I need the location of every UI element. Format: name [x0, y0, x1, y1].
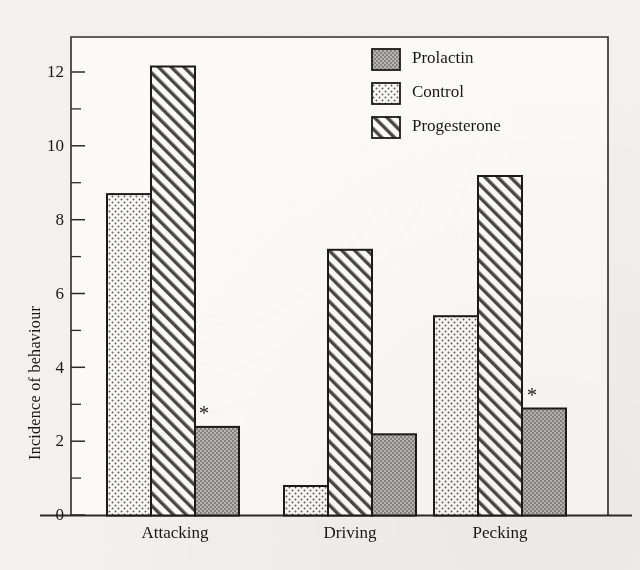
legend-swatches: [372, 49, 400, 138]
legend-label-control: Control: [412, 82, 464, 102]
significance-star-attacking-prolactin: *: [199, 403, 209, 423]
x-tick-label-driving: Driving: [288, 523, 412, 543]
y-tick-label-8: 8: [36, 210, 64, 230]
y-tick-label-4: 4: [36, 358, 64, 378]
bar-pecking-prolactin[interactable]: [522, 409, 566, 516]
bar-driving-control[interactable]: [284, 486, 328, 516]
bar-attacking-progesterone[interactable]: [151, 67, 195, 516]
bar-driving-progesterone[interactable]: [328, 250, 372, 516]
legend-label-progesterone: Progesterone: [412, 116, 501, 136]
legend-swatch-control: [372, 83, 400, 104]
y-tick-label-0: 0: [36, 505, 64, 525]
significance-star-pecking-prolactin: *: [527, 385, 537, 405]
bar-attacking-prolactin[interactable]: [195, 427, 239, 516]
legend-swatch-progesterone: [372, 117, 400, 138]
bar-driving-prolactin[interactable]: [372, 434, 416, 515]
y-tick-label-10: 10: [36, 136, 64, 156]
chart-svg: [0, 0, 640, 570]
bar-pecking-control[interactable]: [434, 316, 478, 515]
y-tick-label-12: 12: [36, 62, 64, 82]
y-tick-label-2: 2: [36, 431, 64, 451]
y-tick-label-6: 6: [36, 284, 64, 304]
x-tick-label-pecking: Pecking: [438, 523, 562, 543]
bar-chart-figure: Incidence of behaviour 12 10 8 6 4 2 0 A…: [0, 0, 640, 570]
legend-swatch-prolactin: [372, 49, 400, 70]
bar-pecking-progesterone[interactable]: [478, 176, 522, 516]
y-axis-label: Incidence of behaviour: [26, 20, 52, 460]
bar-attacking-control[interactable]: [107, 194, 151, 515]
legend-label-prolactin: Prolactin: [412, 48, 473, 68]
x-tick-label-attacking: Attacking: [113, 523, 237, 543]
